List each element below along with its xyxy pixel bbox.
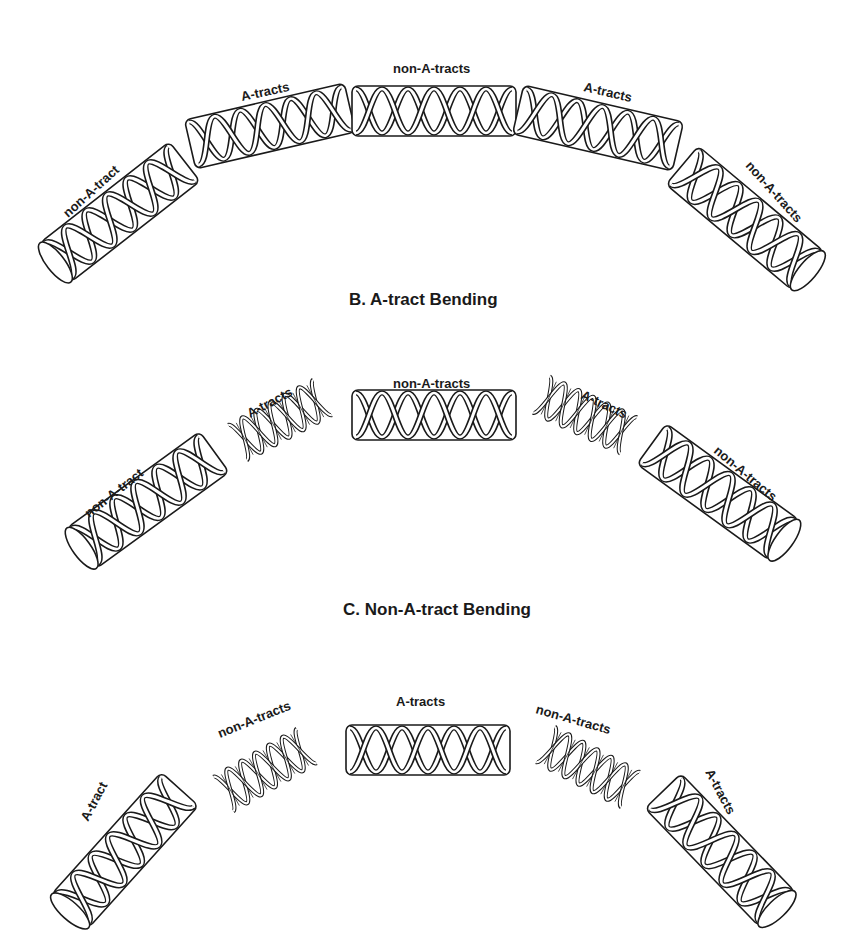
segment-c1-cylinder bbox=[46, 772, 199, 934]
label-c2: non-A-tracts bbox=[216, 698, 293, 741]
dna-bending-diagram: non-A-tract A-tracts non-A-tracts A-trac… bbox=[0, 0, 860, 944]
segment-b1-cylinder bbox=[60, 432, 229, 574]
segment-c2-helix bbox=[214, 729, 317, 811]
segment-b3-cylinder bbox=[352, 390, 516, 440]
panel-c-title: C. Non-A-tract Bending bbox=[343, 600, 531, 619]
label-c4: non-A-tracts bbox=[534, 701, 612, 737]
segment-c4-helix bbox=[536, 727, 639, 807]
segment-a4-cylinder bbox=[512, 85, 683, 171]
segment-c3-cylinder bbox=[346, 725, 510, 775]
panel-c: A-tract non-A-tracts A-tracts non-A-trac… bbox=[46, 694, 802, 934]
segment-a3-cylinder bbox=[352, 86, 516, 136]
label-b3: non-A-tracts bbox=[393, 376, 470, 391]
segment-a1-cylinder bbox=[33, 142, 200, 288]
panel-b-title: B. A-tract Bending bbox=[349, 290, 498, 309]
label-c1: A-tract bbox=[77, 779, 110, 824]
panel-a: non-A-tract A-tracts non-A-tracts A-trac… bbox=[33, 61, 831, 296]
label-a3: non-A-tracts bbox=[393, 61, 470, 76]
panel-b: non-A-tract A-tracts non-A-tracts A-trac… bbox=[60, 376, 807, 574]
label-c3: A-tracts bbox=[396, 694, 445, 709]
